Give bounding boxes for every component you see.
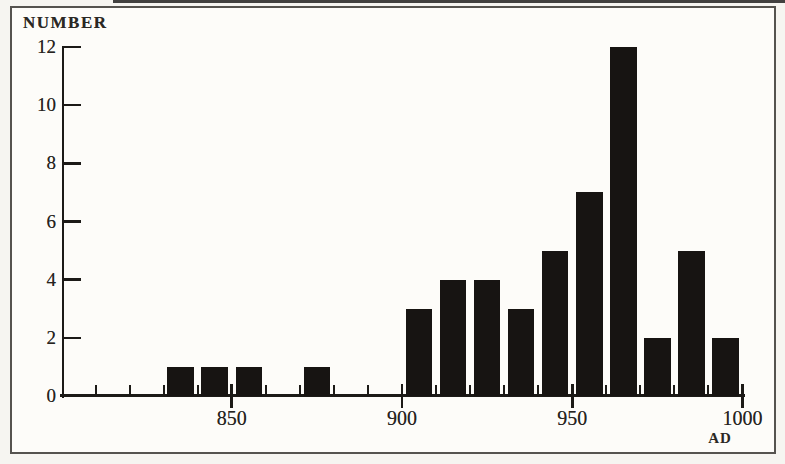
x-tick-minor xyxy=(469,385,471,395)
y-tick-label: 10 xyxy=(10,93,56,117)
y-tick-label: 2 xyxy=(10,326,56,350)
histogram-plot: NUMBER AD 0246810128509009501000 xyxy=(0,0,785,464)
y-tick-label: 8 xyxy=(10,151,56,175)
x-tick-minor xyxy=(197,385,199,395)
x-tick-minor xyxy=(367,385,369,395)
y-tick xyxy=(62,337,81,339)
x-tick-major xyxy=(571,384,574,408)
bar xyxy=(440,280,467,396)
bar xyxy=(236,367,263,396)
x-tick-minor xyxy=(503,385,505,395)
bar xyxy=(678,251,705,396)
bar xyxy=(201,367,228,396)
y-tick-label: 6 xyxy=(10,210,56,234)
x-tick-major xyxy=(741,384,744,408)
bar xyxy=(610,47,637,396)
figure-scan: NUMBER AD 0246810128509009501000 xyxy=(0,0,785,464)
bar xyxy=(406,309,433,396)
x-tick-minor xyxy=(129,385,131,395)
y-tick xyxy=(62,162,81,164)
x-tick-minor xyxy=(333,385,335,395)
y-tick xyxy=(62,104,81,106)
x-tick-label: 900 xyxy=(362,406,442,430)
x-tick-minor xyxy=(95,385,97,395)
x-tick-minor xyxy=(537,385,539,395)
x-tick-major xyxy=(401,384,404,408)
x-tick-minor xyxy=(163,385,165,395)
bar xyxy=(712,338,739,396)
y-tick-label: 12 xyxy=(10,35,56,59)
bar xyxy=(576,192,603,396)
y-tick-label: 4 xyxy=(10,268,56,292)
x-tick-minor xyxy=(435,385,437,395)
x-tick-major xyxy=(230,384,233,408)
bar xyxy=(474,280,501,396)
x-tick-minor xyxy=(673,385,675,395)
y-tick xyxy=(62,46,81,48)
x-tick-label: 1000 xyxy=(703,406,783,430)
y-tick-label: 0 xyxy=(10,384,56,408)
x-tick-minor xyxy=(639,385,641,395)
x-tick-label: 950 xyxy=(532,406,612,430)
x-tick-minor xyxy=(265,385,267,395)
x-tick-minor xyxy=(707,385,709,395)
x-axis-unit-label: AD xyxy=(680,430,760,447)
y-axis-title: NUMBER xyxy=(23,13,108,33)
bar xyxy=(167,367,194,396)
bar xyxy=(644,338,671,396)
bar xyxy=(508,309,535,396)
y-tick xyxy=(62,220,81,222)
y-tick xyxy=(62,278,81,280)
x-tick-minor xyxy=(605,385,607,395)
x-tick-label: 850 xyxy=(192,406,272,430)
bar xyxy=(304,367,331,396)
x-tick-minor xyxy=(299,385,301,395)
bar xyxy=(542,251,569,396)
